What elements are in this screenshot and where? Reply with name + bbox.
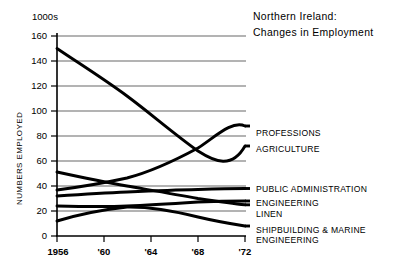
x-tick-1960: '60 <box>98 246 111 257</box>
series-label-shipbuilding-marine-2: ENGINEERING <box>256 235 319 245</box>
x-tick-1964: '64 <box>145 246 159 257</box>
employment-line-chart: 1000s 0 20 40 60 80 100 120 140 160 1956… <box>0 0 412 272</box>
series-label-linen: LINEN <box>256 209 283 219</box>
series-label-professions: PROFESSIONS <box>256 128 321 138</box>
line-shipbuilding-marine <box>57 207 245 226</box>
series-label-agriculture: AGRICULTURE <box>256 144 320 154</box>
y-tick-80: 80 <box>36 130 47 141</box>
y-tick-60: 60 <box>36 155 47 166</box>
x-tick-1972: '72 <box>239 246 252 257</box>
y-unit-label: 1000s <box>32 11 58 22</box>
y-tick-0: 0 <box>42 230 47 241</box>
y-tick-20: 20 <box>36 205 47 216</box>
x-tick-marks <box>57 236 245 242</box>
series-label-engineering: ENGINEERING <box>256 198 319 208</box>
series-label-shipbuilding-marine-1: SHIPBUILDING & MARINE <box>256 225 366 235</box>
line-agriculture <box>57 49 245 162</box>
y-tick-40: 40 <box>36 180 47 191</box>
y-tick-100: 100 <box>31 105 47 116</box>
chart-title-line2: Changes in Employment <box>253 27 374 38</box>
x-tick-1968: '68 <box>192 246 205 257</box>
y-tick-140: 140 <box>31 55 47 66</box>
x-tick-1956: 1956 <box>47 246 68 257</box>
chart-title-line1: Northern Ireland: <box>253 11 337 22</box>
y-tick-120: 120 <box>31 80 47 91</box>
chart-figure: 1000s 0 20 40 60 80 100 120 140 160 1956… <box>0 0 412 272</box>
y-tick-160: 160 <box>31 30 47 41</box>
line-professions <box>57 125 245 190</box>
series-label-public-administration: PUBLIC ADMINISTRATION <box>256 184 367 194</box>
y-axis-title: NUMBERS EMPLOYED <box>15 112 24 205</box>
